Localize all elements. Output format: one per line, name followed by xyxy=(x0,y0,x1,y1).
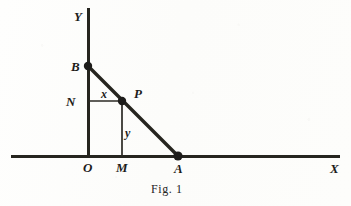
segment-ba xyxy=(88,66,178,156)
point-label-m: M xyxy=(116,161,128,174)
point-label-o: O xyxy=(83,161,93,174)
measure-label-x: x xyxy=(101,88,107,100)
point-label-b: B xyxy=(71,60,80,73)
x-axis-label: X xyxy=(330,162,339,175)
point-b-dot xyxy=(84,62,92,70)
figure-caption: Fig. 1 xyxy=(151,182,183,197)
measure-label-y: y xyxy=(125,127,131,139)
point-p-dot xyxy=(118,97,126,105)
point-label-a: A xyxy=(174,162,183,175)
figure-canvas: Y X B N P O M A x y Fig. 1 xyxy=(0,0,351,206)
point-a-dot xyxy=(173,151,182,160)
y-axis-label: Y xyxy=(74,10,82,23)
point-label-n: N xyxy=(66,95,76,108)
point-label-p: P xyxy=(134,87,142,100)
